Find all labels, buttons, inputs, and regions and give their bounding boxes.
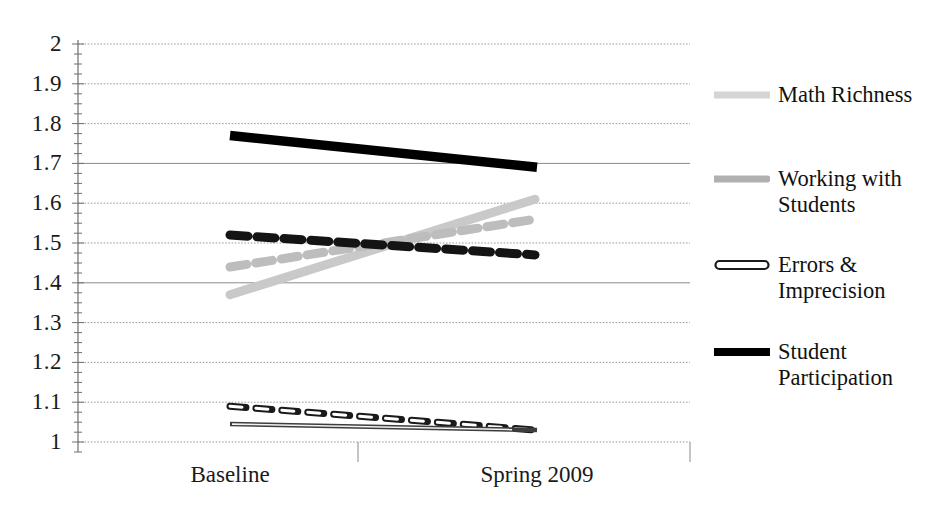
chart-container: 2 1.9 1.8 1.7 1.6 1.5 1.4 1.3 1.2 1.1 1 <box>0 0 938 514</box>
x-tick-label-spring-2009: Spring 2009 <box>480 462 593 488</box>
x-axis-ticks <box>358 442 690 462</box>
legend-label-errors-imprecision: Errors & Imprecision <box>778 252 885 304</box>
legend-label-student-participation: Student Participation <box>778 339 893 391</box>
legend-item-working-with-students[interactable]: Working with Students <box>714 166 902 218</box>
legend-swatch-working-with-students <box>714 168 770 190</box>
legend-swatch-math-richness <box>714 84 770 106</box>
series-line-student-participation <box>230 136 537 168</box>
y-axis-spine <box>72 40 84 452</box>
legend-swatch-errors-imprecision <box>714 254 770 276</box>
legend: Math Richness Working with Students Erro… <box>714 62 938 402</box>
legend-item-math-richness[interactable]: Math Richness <box>714 82 912 108</box>
x-tick-label-baseline: Baseline <box>190 462 269 488</box>
legend-item-student-participation[interactable]: Student Participation <box>714 339 893 391</box>
legend-label-working-with-students: Working with Students <box>778 166 902 218</box>
legend-swatch-student-participation <box>714 341 770 363</box>
legend-label-math-richness: Math Richness <box>778 82 912 108</box>
series-line-dark-dashed <box>230 235 535 255</box>
legend-item-errors-imprecision[interactable]: Errors & Imprecision <box>714 252 885 304</box>
